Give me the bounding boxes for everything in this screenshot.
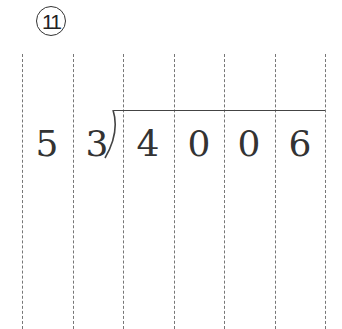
dividend-digit: 0 [229,122,269,166]
grid-line [325,54,326,329]
grid-line [73,54,74,329]
divisor-digit: 5 [27,122,67,166]
grid-line [224,54,225,329]
grid-line [275,54,276,329]
problem-number: 11 [42,10,60,33]
grid-line [123,54,124,329]
grid-line [174,54,175,329]
problem-number-badge: 11 [36,6,66,36]
division-vinculum [114,110,325,111]
division-bracket-icon [104,110,118,160]
grid-line [22,54,23,329]
dividend-digit: 6 [280,122,320,166]
dividend-digit: 0 [179,122,219,166]
dividend-digit: 4 [128,122,168,166]
